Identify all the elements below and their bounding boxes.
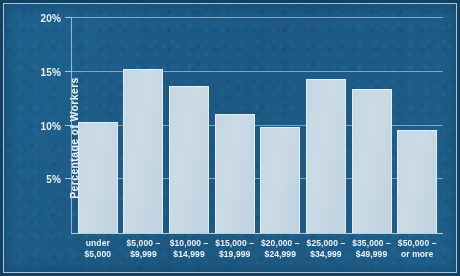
bar [215, 114, 255, 233]
bar-slot [303, 18, 349, 233]
bar-slot [394, 18, 440, 233]
y-axis-tick [65, 178, 72, 179]
bar [397, 130, 437, 233]
bar [169, 86, 209, 233]
x-axis-label-line: $15,000 – [212, 238, 258, 249]
x-axis-label-line: $19,999 [212, 249, 258, 260]
x-axis-label-line: $25,000 – [303, 238, 349, 249]
x-axis-label-line: $5,000 [75, 249, 121, 260]
bar [260, 127, 300, 233]
x-axis-label-line: under [75, 238, 121, 249]
plot-area: 5%10%15%20% [72, 18, 443, 233]
y-axis-tick [65, 125, 72, 126]
y-axis-tick-label: 5% [46, 174, 61, 185]
x-axis-category-label: $50,000 –or more [394, 238, 440, 260]
x-axis-category-label: under$5,000 [75, 238, 121, 260]
x-axis-category-label: $35,000 –$49,999 [349, 238, 395, 260]
bar [306, 79, 346, 233]
bar-chart-figure: Percentage of Workers 5%10%15%20% under$… [0, 0, 460, 276]
bar-slot [212, 18, 258, 233]
x-axis-label-line: or more [394, 249, 440, 260]
y-axis-tick-label: 20% [40, 13, 61, 24]
x-axis-category-label: $10,000 –$14,999 [166, 238, 212, 260]
bar-slot [75, 18, 121, 233]
x-axis-category-label: $20,000 –$24,999 [258, 238, 304, 260]
x-axis-label-line: $50,000 – [394, 238, 440, 249]
bar-slot [349, 18, 395, 233]
x-axis-label-line: $24,999 [258, 249, 304, 260]
x-axis-label-line: $20,000 – [258, 238, 304, 249]
x-axis-label-line: $49,999 [349, 249, 395, 260]
y-axis-tick-label: 10% [40, 120, 61, 131]
y-axis-tick-label: 15% [40, 66, 61, 77]
bar [352, 89, 392, 233]
bar-series [72, 18, 443, 233]
x-axis-label-line: $9,999 [121, 249, 167, 260]
bar-slot [166, 18, 212, 233]
x-axis-category-labels: under$5,000$5,000 –$9,999$10,000 –$14,99… [72, 238, 443, 260]
bar-slot [121, 18, 167, 233]
x-axis-label-line: $34,999 [303, 249, 349, 260]
x-axis-label-line: $10,000 – [166, 238, 212, 249]
x-axis-category-label: $5,000 –$9,999 [121, 238, 167, 260]
x-axis-label-line: $5,000 – [121, 238, 167, 249]
bar [123, 69, 163, 233]
x-axis-line [71, 233, 443, 234]
bar [78, 122, 118, 233]
y-axis-tick [65, 71, 72, 72]
bar-slot [258, 18, 304, 233]
x-axis-label-line: $14,999 [166, 249, 212, 260]
x-axis-category-label: $25,000 –$34,999 [303, 238, 349, 260]
y-axis-tick [65, 17, 72, 18]
x-axis-category-label: $15,000 –$19,999 [212, 238, 258, 260]
x-axis-label-line: $35,000 – [349, 238, 395, 249]
